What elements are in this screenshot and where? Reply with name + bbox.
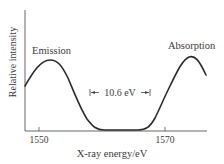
- y-axis-label: Relative intensity: [7, 27, 18, 97]
- arrow-right-icon: [145, 91, 149, 94]
- emission-label: Emission: [32, 45, 72, 56]
- xray-spectrum-chart: 10.6 eV Emission Absorption 1550 1570 X-…: [0, 0, 224, 164]
- arrow-left-icon: [91, 91, 95, 94]
- absorption-label: Absorption: [168, 40, 216, 51]
- x-axis-label: X-ray energy/eV: [77, 148, 148, 159]
- gap-label: 10.6 eV: [104, 87, 136, 98]
- x-tick-label-1570: 1570: [156, 135, 175, 145]
- gap-annotation: 10.6 eV: [90, 87, 150, 98]
- x-tick-label-1550: 1550: [30, 135, 49, 145]
